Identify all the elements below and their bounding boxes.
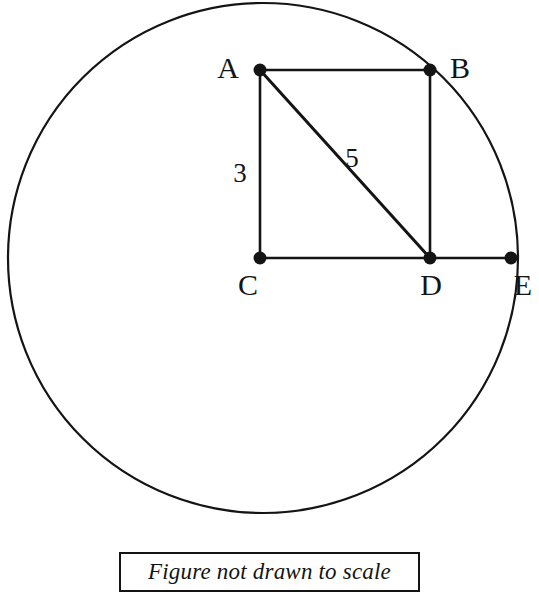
vertex-dot-B (424, 64, 437, 77)
point-label-D: D (420, 268, 442, 301)
point-label-B: B (450, 51, 470, 84)
point-label-E: E (514, 268, 532, 301)
figure-caption-box: Figure not drawn to scale (119, 552, 420, 592)
vertex-dot-E (505, 252, 518, 265)
length-label-AC: 3 (233, 158, 247, 188)
vertex-dot-A (254, 64, 267, 77)
point-label-C: C (238, 268, 258, 301)
vertex-dot-C (254, 252, 267, 265)
length-label-AD: 5 (345, 143, 359, 173)
point-label-A: A (217, 51, 239, 84)
vertex-dot-D (424, 252, 437, 265)
figure-caption-text: Figure not drawn to scale (148, 559, 391, 585)
